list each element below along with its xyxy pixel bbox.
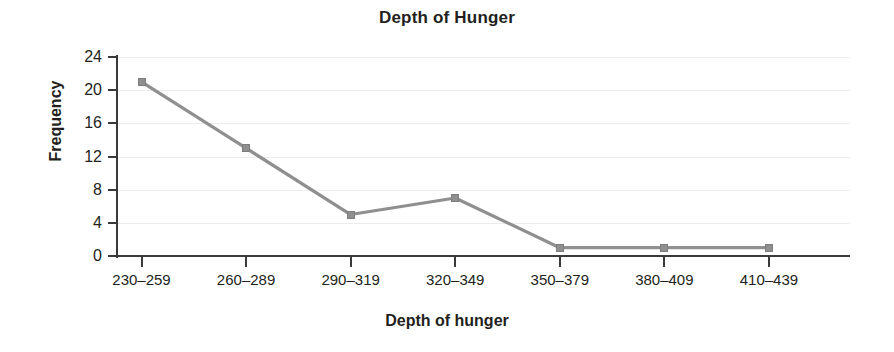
x-tick-mark — [245, 257, 247, 267]
x-tick-label: 380–409 — [604, 272, 724, 287]
x-tick-mark — [350, 257, 352, 267]
y-tick-label: 0 — [58, 248, 102, 264]
y-tick-mark — [108, 56, 117, 58]
x-tick-label: 350–379 — [500, 272, 620, 287]
data-point-marker — [660, 244, 668, 252]
x-tick-mark — [663, 257, 665, 267]
y-tick-label: 24 — [58, 49, 102, 65]
y-tick-mark — [108, 156, 117, 158]
y-tick-label: 4 — [58, 215, 102, 231]
y-tick-label: 8 — [58, 182, 102, 198]
x-tick-label: 290–319 — [291, 272, 411, 287]
data-point-marker — [138, 78, 146, 86]
data-point-marker — [556, 244, 564, 252]
data-point-marker — [242, 144, 250, 152]
y-tick-mark — [108, 122, 117, 124]
data-point-marker — [765, 244, 773, 252]
x-tick-mark — [454, 257, 456, 267]
x-tick-mark — [559, 257, 561, 267]
x-tick-label: 410–439 — [709, 272, 829, 287]
frequency-polygon-chart: Depth of Hunger Frequency Depth of hunge… — [0, 0, 894, 352]
y-tick-label: 20 — [58, 82, 102, 98]
y-tick-mark — [108, 189, 117, 191]
data-point-marker — [347, 211, 355, 219]
x-tick-mark — [768, 257, 770, 267]
x-tick-mark — [141, 257, 143, 267]
x-tick-label: 230–259 — [82, 272, 202, 287]
x-tick-label: 260–289 — [186, 272, 306, 287]
y-tick-mark — [108, 89, 117, 91]
y-tick-mark — [108, 222, 117, 224]
y-tick-label: 12 — [58, 149, 102, 165]
x-tick-label: 320–349 — [395, 272, 515, 287]
series-line — [0, 0, 894, 352]
y-tick-label: 16 — [58, 115, 102, 131]
y-tick-mark — [108, 255, 117, 257]
data-point-marker — [451, 194, 459, 202]
